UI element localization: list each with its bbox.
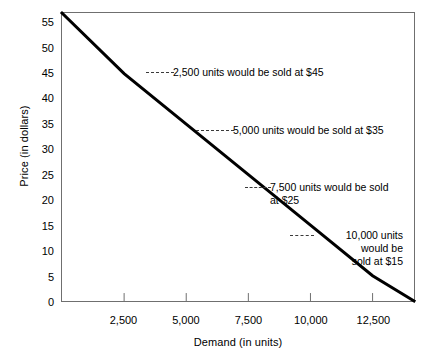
x-axis-tick-label: 2,500 bbox=[88, 314, 158, 326]
demand-curve-chart: Price (in dollars) 051015202530354045505… bbox=[0, 0, 437, 362]
annotation-label: 2,500 units would be sold at $45 bbox=[173, 66, 324, 79]
annotation-leader-line bbox=[196, 130, 234, 131]
annotation-label: 5,000 units would be sold at $35 bbox=[233, 124, 384, 137]
annotation-leader-line bbox=[245, 187, 271, 188]
x-axis-tick-label: 10,000 bbox=[276, 314, 346, 326]
x-axis-tick-label: 7,500 bbox=[213, 314, 283, 326]
x-axis-title: Demand (in units) bbox=[60, 336, 416, 348]
annotation-label: 10,000 units would be sold at $15 bbox=[303, 229, 403, 268]
x-axis-tick-label: 5,000 bbox=[151, 314, 221, 326]
x-axis-tick-label: 12,500 bbox=[338, 314, 408, 326]
annotation-leader-line bbox=[146, 72, 174, 73]
annotation-label: 7,500 units would be sold at $25 bbox=[270, 181, 389, 207]
